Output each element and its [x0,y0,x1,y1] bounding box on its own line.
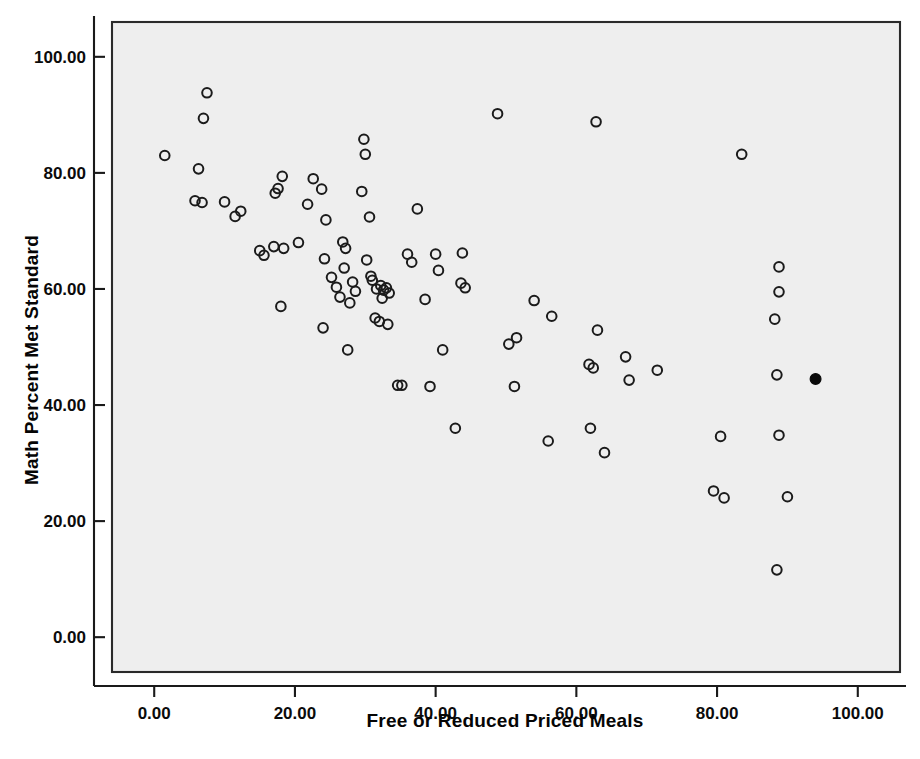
data-point-highlighted [810,374,821,385]
y-tick-label: 60.00 [43,280,86,299]
y-tick-label: 100.00 [34,48,86,67]
x-tick-label: 80.00 [696,704,739,723]
x-tick-label: 40.00 [414,704,457,723]
scatter-plot-figure: 0.0020.0040.0060.0080.00100.000.0020.004… [0,0,920,759]
x-tick-label: 60.00 [555,704,598,723]
y-tick-label: 20.00 [43,512,86,531]
scatter-plot-canvas: 0.0020.0040.0060.0080.00100.000.0020.004… [0,0,920,759]
x-tick-label: 100.00 [832,704,884,723]
y-tick-label: 0.00 [53,628,86,647]
x-tick-label: 0.00 [138,704,171,723]
y-tick-label: 80.00 [43,164,86,183]
x-tick-label: 20.00 [274,704,317,723]
y-tick-label: 40.00 [43,396,86,415]
